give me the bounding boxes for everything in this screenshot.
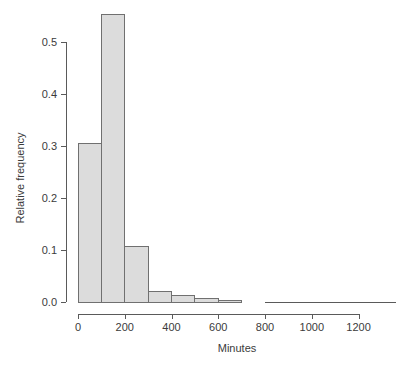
histogram-bar — [101, 15, 124, 302]
histogram-chart: 020040060080010001200 0.00.10.20.30.40.5… — [0, 0, 406, 365]
y-axis-tick-label: 0.5 — [42, 36, 57, 48]
x-axis-tick-label: 200 — [116, 321, 134, 333]
histogram-bar — [78, 143, 101, 302]
y-axis: 0.00.10.20.30.40.5 — [42, 36, 67, 308]
y-axis-tick-label: 0.2 — [42, 192, 57, 204]
histogram-bar — [172, 296, 195, 302]
histogram-bar — [148, 291, 171, 302]
x-axis-tick-label: 1000 — [300, 321, 324, 333]
y-axis-tick-label: 0.0 — [42, 296, 57, 308]
x-axis-tick-label: 600 — [209, 321, 227, 333]
x-axis: 020040060080010001200 — [75, 314, 371, 333]
x-axis-title: Minutes — [218, 342, 257, 354]
x-axis-tick-label: 400 — [162, 321, 180, 333]
histogram-bar — [195, 299, 218, 302]
y-axis-title: Relative frequency — [14, 132, 26, 224]
y-axis-tick-label: 0.3 — [42, 140, 57, 152]
histogram-bar — [218, 300, 241, 302]
x-axis-tick-label: 1200 — [346, 321, 370, 333]
y-axis-tick-label: 0.1 — [42, 244, 57, 256]
x-axis-tick-label: 0 — [75, 321, 81, 333]
histogram-bar — [125, 246, 148, 302]
x-axis-tick-label: 800 — [256, 321, 274, 333]
histogram-svg: 020040060080010001200 0.00.10.20.30.40.5… — [0, 0, 406, 365]
y-axis-tick-label: 0.4 — [42, 88, 57, 100]
bars-group — [78, 15, 242, 302]
